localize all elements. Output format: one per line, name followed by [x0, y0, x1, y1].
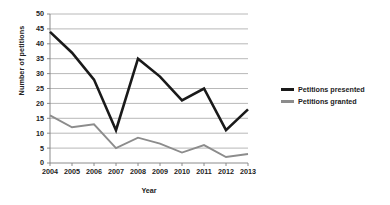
data-series — [50, 32, 248, 157]
axis-ticks — [47, 14, 248, 166]
series-line-1 — [50, 32, 248, 130]
y-tick-label: 35 — [22, 55, 44, 62]
x-tick-label: 2013 — [233, 167, 263, 176]
line-chart: Number of petitions 05101520253035404550… — [0, 0, 390, 205]
y-tick-label: 25 — [22, 85, 44, 92]
y-tick-label: 15 — [22, 115, 44, 122]
legend-item-2[interactable]: Petitions granted — [281, 96, 389, 107]
series-line-2 — [50, 115, 248, 157]
y-tick-label: 5 — [22, 145, 44, 152]
y-tick-label: 40 — [22, 40, 44, 47]
y-tick-label: 10 — [22, 130, 44, 137]
y-tick-label: 45 — [22, 25, 44, 32]
y-tick-label: 0 — [22, 159, 44, 166]
legend-label: Petitions granted — [298, 97, 357, 106]
legend-line-swatch-icon — [281, 88, 294, 91]
y-tick-label: 30 — [22, 70, 44, 77]
y-tick-label: 50 — [22, 10, 44, 17]
legend-line-swatch-icon — [281, 100, 294, 102]
legend-item-1[interactable]: Petitions presented — [281, 84, 389, 95]
x-axis-title: Year — [50, 186, 248, 195]
gridlines — [50, 14, 248, 148]
y-tick-label: 20 — [22, 100, 44, 107]
chart-legend: Petitions presentedPetitions granted — [281, 84, 389, 108]
legend-label: Petitions presented — [298, 85, 365, 94]
